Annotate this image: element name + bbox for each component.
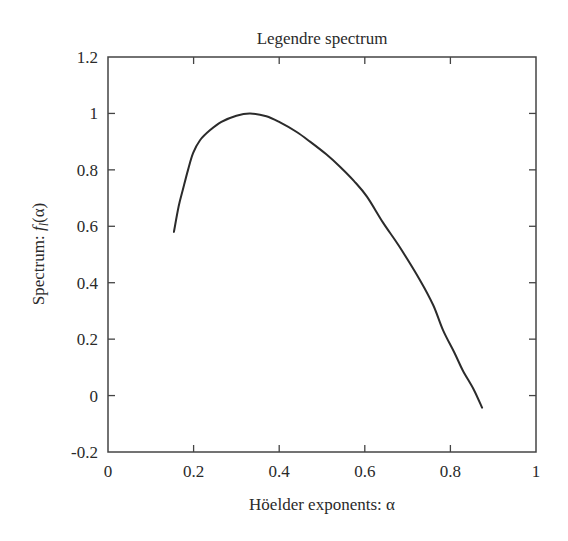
y-tick-label: 0.4 <box>77 274 99 293</box>
spectrum-curve <box>174 113 482 407</box>
y-tick-label: 1 <box>90 104 99 123</box>
x-tick-label: 1 <box>532 462 541 481</box>
y-tick-label: 0 <box>90 387 99 406</box>
y-axis-ticks: -0.200.20.40.60.811.2 <box>71 48 536 462</box>
x-tick-label: 0.8 <box>440 462 461 481</box>
y-axis-label-prefix: Spectrum: <box>29 231 48 305</box>
y-axis-label: Spectrum: fl(α) <box>29 203 51 305</box>
x-axis-ticks: 00.20.40.60.81 <box>104 57 541 481</box>
x-tick-label: 0 <box>104 462 113 481</box>
y-tick-label: -0.2 <box>71 443 98 462</box>
y-tick-label: 0.2 <box>77 330 98 349</box>
x-tick-label: 0.4 <box>269 462 291 481</box>
y-axis-label-suffix: (α) <box>29 203 48 223</box>
chart-title: Legendre spectrum <box>257 29 388 48</box>
chart-canvas: Legendre spectrum 00.20.40.60.81 -0.200.… <box>0 0 568 541</box>
chart: Legendre spectrum 00.20.40.60.81 -0.200.… <box>0 0 568 541</box>
y-tick-label: 1.2 <box>77 48 98 67</box>
y-tick-label: 0.8 <box>77 161 98 180</box>
x-tick-label: 0.6 <box>354 462 375 481</box>
x-axis-label: Höelder exponents: α <box>249 495 395 514</box>
plot-border <box>108 57 536 452</box>
x-tick-label: 0.2 <box>183 462 204 481</box>
plot-frame <box>108 57 536 452</box>
y-tick-label: 0.6 <box>77 217 98 236</box>
